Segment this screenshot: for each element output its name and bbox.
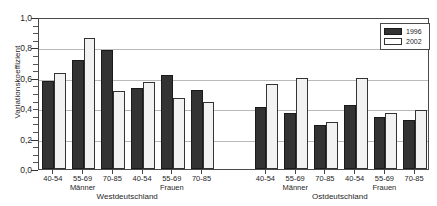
bar-1996-70-85-8 (314, 125, 326, 169)
bar-2002-70-85-11 (415, 110, 427, 169)
bar-1996-55-69-10 (374, 117, 386, 169)
bar-2002-55-69-7 (296, 78, 308, 169)
y-axis-tick-label: 1,0 (10, 14, 32, 22)
region-group-label: Westdeutschland (77, 192, 177, 201)
y-axis-major-tick (31, 48, 38, 49)
bar-1996-40-54-6 (255, 107, 267, 169)
x-axis-label: 70-85 (186, 174, 218, 183)
y-axis-tick-label: 0,0 (10, 166, 32, 174)
bar-1996-70-85-11 (403, 120, 415, 169)
x-axis-label: 70-85 (309, 174, 341, 183)
legend: 19962002 (380, 23, 430, 50)
bars-layer (39, 19, 428, 169)
bar-2002-70-85-2 (113, 91, 125, 169)
y-axis-tick-label: 0,6 (10, 75, 32, 83)
bar-1996-70-85-5 (191, 90, 203, 169)
bar-2002-70-85-8 (326, 122, 338, 169)
bar-1996-55-69-1 (72, 60, 84, 169)
y-axis-ticks (31, 18, 38, 170)
x-axis-label: 70-85 (96, 174, 128, 183)
sex-group-label: Frauen (144, 183, 200, 192)
bar-1996-55-69-4 (161, 75, 173, 169)
x-axis-label: 40-54 (37, 174, 69, 183)
x-axis-label: 55-69 (368, 174, 400, 183)
plot-area (38, 18, 429, 170)
bar-2002-70-85-5 (203, 102, 215, 169)
bar-1996-40-54-3 (131, 88, 143, 169)
bar-2002-40-54-3 (143, 82, 155, 169)
x-axis-label: 55-69 (156, 174, 188, 183)
legend-swatch-1996 (384, 28, 402, 35)
legend-label: 2002 (406, 38, 422, 46)
bar-2002-40-54-0 (54, 73, 66, 169)
bar-1996-40-54-9 (344, 105, 356, 169)
legend-label: 1996 (406, 28, 422, 36)
legend-item: 2002 (384, 37, 426, 46)
region-group-label: Ostdeutschland (290, 192, 390, 201)
bar-1996-40-54-0 (42, 81, 54, 169)
y-axis-major-tick (31, 170, 38, 171)
bar-1996-70-85-2 (101, 50, 113, 169)
y-axis-tick-label: 0,2 (10, 136, 32, 144)
x-axis-label: 55-69 (279, 174, 311, 183)
bar-2002-40-54-9 (356, 78, 368, 169)
sex-group-label: Männer (267, 183, 323, 192)
variation-coefficient-bar-chart: Variationskoeffizient 1,00,80,60,40,20,0… (0, 0, 437, 206)
x-axis-label: 40-54 (249, 174, 281, 183)
x-axis-label: 55-69 (67, 174, 99, 183)
y-axis-tick-label: 0,4 (10, 105, 32, 113)
bar-2002-40-54-6 (266, 84, 278, 169)
sex-group-label: Männer (55, 183, 111, 192)
y-axis-major-tick (31, 140, 38, 141)
bar-1996-55-69-7 (284, 113, 296, 169)
y-axis-major-tick (31, 18, 38, 19)
bar-2002-55-69-1 (84, 38, 96, 169)
y-axis-tick-label: 0,8 (10, 44, 32, 52)
footer-text-sliver (0, 201, 437, 206)
bar-2002-55-69-4 (173, 98, 185, 169)
legend-item: 1996 (384, 27, 426, 36)
bar-2002-55-69-10 (385, 113, 397, 169)
legend-swatch-2002 (384, 38, 402, 45)
x-axis-label: 40-54 (339, 174, 371, 183)
y-axis-major-tick (31, 79, 38, 80)
x-axis-label: 70-85 (398, 174, 430, 183)
x-axis-label: 40-54 (126, 174, 158, 183)
sex-group-label: Frauen (356, 183, 412, 192)
